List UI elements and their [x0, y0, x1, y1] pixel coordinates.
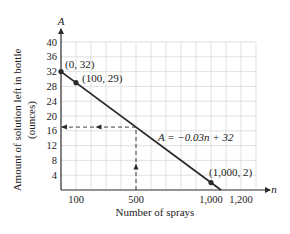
x-tick-label: 100: [68, 194, 84, 205]
y-tick-label: 20: [47, 111, 58, 122]
x-axis-title: Number of sprays: [116, 206, 195, 218]
x-tick-label: 1,200: [229, 194, 253, 205]
point-label: (1,000, 2): [209, 166, 252, 179]
dashed-annotations: [61, 125, 139, 190]
y-axis-title-line2: (ounces): [25, 101, 38, 139]
arrow-left-icon: [61, 125, 67, 130]
y-tick-label: 32: [47, 66, 58, 77]
line-chart: (0, 32)(100, 29)(1,000, 2) 4812162024283…: [0, 0, 290, 234]
point-label: (100, 29): [82, 72, 123, 85]
equation-label: A = −0.03n + 32: [157, 131, 234, 143]
point-label: (0, 32): [65, 58, 95, 71]
x-axis-variable: n: [271, 183, 277, 195]
data-point: [208, 180, 213, 185]
y-tick-label: 8: [52, 155, 57, 166]
y-tick-label: 36: [47, 51, 58, 62]
y-axis-variable: A: [57, 15, 65, 27]
y-tick-label: 16: [47, 125, 58, 136]
data-points: (0, 32)(100, 29)(1,000, 2): [58, 58, 252, 186]
x-tick-label: 500: [128, 194, 144, 205]
data-point: [58, 69, 63, 74]
y-tick-label: 12: [47, 140, 58, 151]
y-axis-title-line1: Amount of solution left in bottle: [11, 49, 23, 192]
y-tick-label: 24: [47, 96, 58, 107]
arrow-up-icon: [134, 164, 139, 170]
data-point: [73, 80, 78, 85]
y-tick-label: 28: [47, 81, 58, 92]
y-tick-label: 40: [47, 37, 58, 48]
x-tick-label: 1,000: [199, 194, 223, 205]
y-tick-label: 4: [52, 170, 58, 181]
arrow-left-icon: [96, 125, 102, 130]
